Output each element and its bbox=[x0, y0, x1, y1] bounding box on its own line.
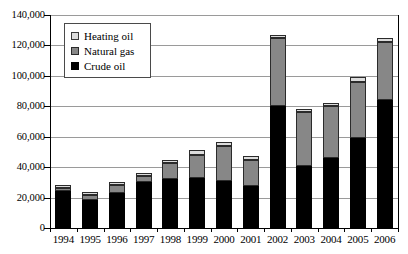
bar-segment-gas-2003 bbox=[296, 112, 312, 165]
bar-segment-gas-2002 bbox=[270, 38, 286, 106]
y-axis-label: 120,000 bbox=[0, 40, 45, 51]
legend-swatch-icon-gas bbox=[71, 47, 79, 55]
bar-segment-heat-2004 bbox=[323, 103, 339, 106]
bar-segment-heat-1998 bbox=[162, 160, 178, 163]
bar-segment-gas-1996 bbox=[109, 185, 125, 193]
bar-segment-heat-2003 bbox=[296, 109, 312, 112]
legend-item-gas: Natural gas bbox=[71, 43, 145, 58]
bar-segment-crude-1997 bbox=[136, 182, 152, 228]
bar-segment-heat-1995 bbox=[82, 192, 98, 195]
bar-2006 bbox=[377, 15, 393, 228]
bar-segment-gas-2004 bbox=[323, 106, 339, 158]
y-axis-label: 20,000 bbox=[0, 193, 45, 204]
bar-segment-crude-1999 bbox=[189, 178, 205, 228]
y-axis-label: 80,000 bbox=[0, 101, 45, 112]
legend-swatch-icon-crude bbox=[71, 62, 79, 70]
legend-label: Natural gas bbox=[84, 45, 134, 57]
bar-segment-crude-1995 bbox=[82, 200, 98, 228]
bar-segment-heat-2006 bbox=[377, 38, 393, 43]
bar-segment-crude-2005 bbox=[350, 138, 366, 228]
legend-swatch-icon-heat bbox=[71, 32, 79, 40]
bar-segment-crude-2002 bbox=[270, 106, 286, 228]
axis-line-left bbox=[50, 15, 51, 229]
bar-segment-gas-1999 bbox=[189, 155, 205, 178]
bar-segment-heat-1996 bbox=[109, 182, 125, 185]
bar-2003 bbox=[296, 15, 312, 228]
bar-2005 bbox=[350, 15, 366, 228]
bar-segment-heat-1997 bbox=[136, 173, 152, 176]
bar-segment-heat-2005 bbox=[350, 77, 366, 82]
bar-2001 bbox=[243, 15, 259, 228]
bar-segment-crude-2003 bbox=[296, 166, 312, 228]
bar-segment-gas-2000 bbox=[216, 146, 232, 181]
bar-segment-gas-1994 bbox=[55, 188, 71, 192]
y-axis-label: 40,000 bbox=[0, 162, 45, 173]
y-axis-label: 0 bbox=[0, 223, 45, 234]
bar-segment-heat-1999 bbox=[189, 150, 205, 155]
bar-segment-gas-1995 bbox=[82, 195, 98, 200]
bar-1998 bbox=[162, 15, 178, 228]
bar-segment-heat-2002 bbox=[270, 35, 286, 38]
y-axis-label: 100,000 bbox=[0, 71, 45, 82]
legend-item-crude: Crude oil bbox=[71, 58, 145, 73]
bar-segment-heat-2000 bbox=[216, 142, 232, 146]
bar-segment-crude-2001 bbox=[243, 186, 259, 228]
bar-segment-gas-1997 bbox=[136, 176, 152, 182]
legend-label: Heating oil bbox=[84, 30, 133, 42]
bar-segment-gas-2001 bbox=[243, 160, 259, 186]
bar-2004 bbox=[323, 15, 339, 228]
bar-2000 bbox=[216, 15, 232, 228]
bar-segment-crude-1998 bbox=[162, 179, 178, 228]
stacked-bar-chart: 020,00040,00060,00080,000100,000120,0001… bbox=[0, 0, 408, 254]
bar-segment-crude-2000 bbox=[216, 181, 232, 228]
bar-segment-gas-2006 bbox=[377, 42, 393, 100]
bar-segment-heat-2001 bbox=[243, 156, 259, 160]
bar-segment-crude-2004 bbox=[323, 158, 339, 228]
chart-legend: Heating oilNatural gasCrude oil bbox=[64, 23, 151, 78]
x-axis-label-2006: 2006 bbox=[368, 233, 402, 245]
bar-segment-crude-1996 bbox=[109, 193, 125, 228]
y-axis-label: 140,000 bbox=[0, 10, 45, 21]
axis-line-bottom bbox=[50, 228, 399, 229]
legend-item-heat: Heating oil bbox=[71, 28, 145, 43]
bar-2002 bbox=[270, 15, 286, 228]
bar-segment-gas-2005 bbox=[350, 82, 366, 138]
y-axis-label: 60,000 bbox=[0, 132, 45, 143]
bar-segment-heat-1994 bbox=[55, 185, 71, 188]
bar-segment-crude-1994 bbox=[55, 191, 71, 228]
bar-1999 bbox=[189, 15, 205, 228]
legend-label: Crude oil bbox=[84, 60, 125, 72]
bar-segment-gas-1998 bbox=[162, 163, 178, 180]
bar-segment-crude-2006 bbox=[377, 100, 393, 228]
axis-line-right bbox=[398, 15, 399, 229]
